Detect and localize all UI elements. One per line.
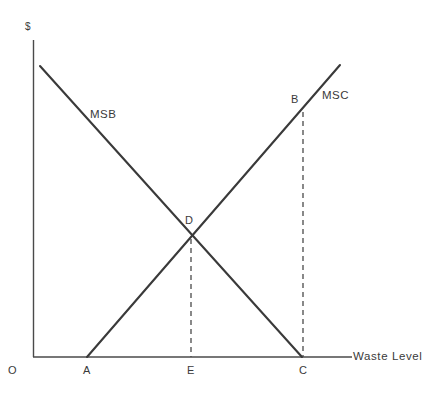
msb-curve	[40, 66, 302, 357]
economics-diagram: $ Waste Level O MSB MSC A B C D E	[0, 0, 438, 393]
point-label-b: B	[291, 93, 299, 105]
msc-curve-label: MSC	[322, 89, 349, 101]
diagram-canvas	[0, 0, 438, 393]
msc-curve	[87, 65, 340, 357]
msb-curve-label: MSB	[90, 108, 116, 120]
point-label-d: D	[185, 214, 193, 226]
point-label-a: A	[83, 364, 91, 376]
origin-label: O	[8, 364, 17, 376]
y-axis-label: $	[25, 21, 31, 32]
point-label-e: E	[187, 364, 195, 376]
point-label-c: C	[299, 364, 307, 376]
x-axis-label: Waste Level	[353, 350, 422, 362]
